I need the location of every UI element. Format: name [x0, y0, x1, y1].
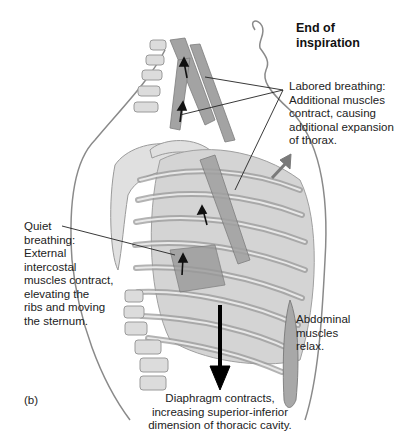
- label-line: dimension of thoracic cavity.: [140, 419, 300, 433]
- figure-title: End of inspiration: [296, 21, 360, 51]
- label-abdominal-muscles: Abdominal muscles relax.: [296, 313, 350, 354]
- label-diaphragm: Diaphragm contracts, increasing superior…: [140, 392, 300, 433]
- label-line: External: [24, 247, 113, 261]
- label-line: muscles: [296, 327, 350, 341]
- neck-muscles: [170, 38, 235, 142]
- intercostal-muscle: [170, 245, 225, 292]
- label-line: contract, causing: [289, 107, 394, 121]
- label-line: intercostal: [24, 261, 113, 275]
- label-line: of thorax.: [289, 134, 394, 148]
- label-line: Diaphragm contracts,: [140, 392, 300, 406]
- label-line: elevating the: [24, 288, 113, 302]
- label-line: ribs and moving: [24, 301, 113, 315]
- label-line: breathing:: [24, 234, 113, 248]
- label-line: additional expansion: [289, 121, 394, 135]
- label-line: muscles contract,: [24, 274, 113, 288]
- label-line: Quiet: [24, 220, 113, 234]
- anatomy-figure: End of inspiration Labored breathing: Ad…: [0, 0, 410, 444]
- panel-label: (b): [24, 394, 38, 408]
- label-line: the sternum.: [24, 315, 113, 329]
- title-line: inspiration: [296, 36, 360, 51]
- label-line: Labored breathing:: [289, 80, 394, 94]
- title-line: End of: [296, 21, 360, 36]
- label-quiet-breathing: Quiet breathing: External intercostal mu…: [24, 220, 113, 328]
- label-line: increasing superior-inferior: [140, 406, 300, 420]
- label-line: Abdominal: [296, 313, 350, 327]
- label-line: relax.: [296, 340, 350, 354]
- label-labored-breathing: Labored breathing: Additional muscles co…: [289, 80, 394, 148]
- label-line: Additional muscles: [289, 94, 394, 108]
